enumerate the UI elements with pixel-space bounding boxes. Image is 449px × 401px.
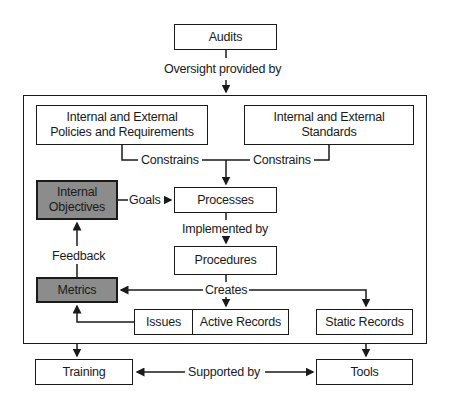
processes-node: Processes bbox=[174, 187, 277, 213]
active-records-label: Active Records bbox=[200, 315, 281, 330]
standards-label-line2: Standards bbox=[301, 125, 356, 140]
training-label: Training bbox=[62, 365, 105, 380]
static-records-label: Static Records bbox=[325, 315, 403, 330]
constrains-right-edge-label: Constrains bbox=[251, 153, 313, 167]
tools-label: Tools bbox=[350, 365, 378, 380]
oversight-edge-label: Oversight provided by bbox=[162, 62, 283, 76]
constrains-left-edge-label: Constrains bbox=[139, 153, 201, 167]
audits-node: Audits bbox=[174, 24, 277, 50]
audits-label: Audits bbox=[209, 30, 243, 45]
policies-label-line2: Policies and Requirements bbox=[50, 125, 194, 140]
supported-by-edge-label: Supported by bbox=[186, 365, 262, 379]
standards-node: Internal and External Standards bbox=[244, 105, 414, 145]
metrics-node: Metrics bbox=[36, 277, 118, 303]
issues-label: Issues bbox=[146, 315, 181, 330]
processes-label: Processes bbox=[197, 193, 254, 208]
feedback-edge-label: Feedback bbox=[50, 249, 107, 263]
training-node: Training bbox=[35, 359, 133, 385]
issues-node: Issues bbox=[135, 310, 193, 334]
tools-node: Tools bbox=[316, 359, 413, 385]
internal-objectives-label-line1: Internal bbox=[57, 185, 97, 200]
internal-objectives-node: Internal Objectives bbox=[36, 180, 118, 220]
implemented-by-edge-label: Implemented by bbox=[180, 222, 270, 236]
active-records-node: Active Records bbox=[193, 310, 288, 334]
policies-label-line1: Internal and External bbox=[66, 110, 177, 125]
records-node: Issues Active Records bbox=[134, 309, 289, 335]
procedures-node: Procedures bbox=[174, 246, 277, 275]
standards-label-line1: Internal and External bbox=[273, 110, 384, 125]
creates-edge-label: Creates bbox=[203, 283, 249, 297]
static-records-node: Static Records bbox=[316, 309, 413, 335]
internal-objectives-label-line2: Objectives bbox=[49, 200, 105, 215]
policies-node: Internal and External Policies and Requi… bbox=[36, 105, 208, 145]
metrics-label: Metrics bbox=[58, 283, 97, 298]
goals-edge-label: Goals bbox=[128, 193, 162, 207]
procedures-label: Procedures bbox=[195, 253, 257, 268]
